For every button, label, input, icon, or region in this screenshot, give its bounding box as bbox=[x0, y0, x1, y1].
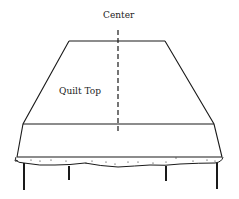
center-label: Center bbox=[103, 10, 134, 20]
quilt-top-outline bbox=[17, 41, 222, 157]
quilt-drawing bbox=[0, 0, 239, 199]
quilt-top-label: Quilt Top bbox=[59, 86, 101, 96]
quilt-left-side bbox=[17, 41, 69, 157]
quilt-diagram: Center Quilt Top bbox=[0, 0, 239, 199]
table-skirt-edge bbox=[16, 157, 223, 167]
quilt-right-side bbox=[165, 41, 222, 157]
